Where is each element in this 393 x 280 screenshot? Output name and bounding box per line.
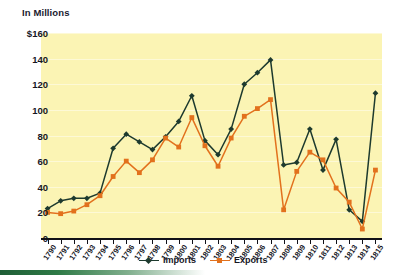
x-axis-tick-mark	[336, 239, 337, 244]
x-axis-tick-mark	[48, 239, 49, 244]
data-point-exports	[203, 143, 208, 148]
legend-entry-exports[interactable]: Exports	[210, 255, 268, 265]
x-axis-tick-mark	[87, 239, 88, 244]
x-axis-tick-mark	[192, 239, 193, 244]
data-point-imports	[71, 195, 77, 201]
data-point-imports	[320, 167, 326, 173]
data-point-exports	[189, 115, 194, 120]
chart-legend: Imports Exports	[139, 255, 268, 265]
data-point-exports	[307, 150, 312, 155]
data-point-imports	[189, 93, 195, 99]
data-point-exports	[58, 211, 63, 216]
data-point-exports	[150, 157, 155, 162]
data-point-imports	[333, 136, 339, 142]
x-axis-tick-mark	[166, 239, 167, 244]
data-point-exports	[281, 207, 286, 212]
data-point-imports	[294, 160, 300, 166]
data-point-exports	[163, 136, 168, 141]
x-axis-tick-label: 1790	[41, 243, 58, 262]
data-point-exports	[71, 209, 76, 214]
legend-label-exports: Exports	[234, 255, 268, 265]
data-point-exports	[137, 170, 142, 175]
x-axis-tick-mark	[100, 239, 101, 244]
data-point-exports	[347, 200, 352, 205]
data-point-imports	[281, 162, 287, 168]
y-axis-title: In Millions	[22, 7, 70, 18]
data-point-exports	[216, 164, 221, 169]
data-point-exports	[124, 159, 129, 164]
x-axis-tick-label: 1815	[369, 243, 386, 262]
exports-line-icon	[210, 256, 230, 265]
plot-area	[41, 33, 382, 238]
x-axis-line	[41, 238, 382, 240]
x-axis-tick-mark	[349, 239, 350, 244]
data-point-imports	[307, 126, 313, 132]
x-axis-tick-label: 1791	[54, 243, 71, 262]
x-axis-tick-mark	[74, 239, 75, 244]
x-axis-tick-mark	[297, 239, 298, 244]
x-axis-tick-mark	[205, 239, 206, 244]
data-point-imports	[84, 195, 90, 201]
data-point-exports	[294, 169, 299, 174]
data-point-exports	[373, 168, 378, 173]
decorative-bottom-bar	[0, 270, 205, 275]
data-point-exports	[321, 157, 326, 162]
x-axis-tick-mark	[231, 239, 232, 244]
legend-entry-imports[interactable]: Imports	[139, 255, 196, 265]
data-point-exports	[98, 193, 103, 198]
data-point-imports	[228, 126, 234, 132]
data-point-exports	[111, 174, 116, 179]
data-point-exports	[268, 97, 273, 102]
data-point-exports	[85, 202, 90, 207]
chart-figure: In Millions 020406080100120140$160 17901…	[0, 0, 393, 280]
x-axis-tick-mark	[218, 239, 219, 244]
series-layer	[41, 33, 382, 238]
data-point-exports	[242, 114, 247, 119]
data-point-exports	[45, 210, 50, 215]
data-point-exports	[229, 136, 234, 141]
data-point-exports	[360, 227, 365, 232]
x-axis-tick-mark	[61, 239, 62, 244]
legend-label-imports: Imports	[163, 255, 196, 265]
x-axis-tick-label: 1809	[290, 243, 307, 262]
x-axis-tick-mark	[284, 239, 285, 244]
data-point-exports	[176, 145, 181, 150]
x-axis-tick-mark	[310, 239, 311, 244]
data-point-exports	[255, 106, 260, 111]
x-axis-tick-mark	[271, 239, 272, 244]
imports-line-icon	[139, 256, 159, 265]
data-point-exports	[334, 186, 339, 191]
data-point-imports	[373, 90, 379, 96]
x-axis-tick-mark	[179, 239, 180, 244]
series-line-exports	[48, 100, 376, 229]
x-axis-tick-mark	[323, 239, 324, 244]
x-axis-tick-mark	[113, 239, 114, 244]
x-axis-tick-mark	[126, 239, 127, 244]
